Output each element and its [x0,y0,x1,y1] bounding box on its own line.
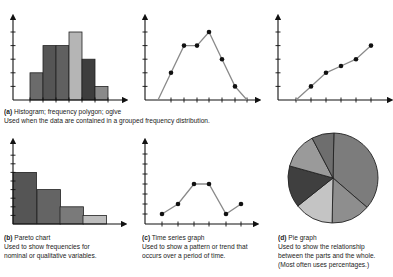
caption-a-description: Used when the data are contained in a gr… [4,116,210,125]
caption-d-line-1: Used to show the relationship [278,242,375,251]
data-point [309,84,314,89]
histogram-bar [56,46,69,100]
ogive-ticks [276,32,372,103]
pareto-bar [60,207,84,224]
data-point [324,71,329,76]
caption-b-label: (b) [4,233,12,242]
caption-d-title: Pie graph [288,233,316,242]
frequency-polygon-chart [143,17,259,103]
caption-b-title: Pareto chart [14,233,50,242]
data-point [239,202,244,207]
histogram-bar [95,86,108,100]
data-point [192,182,197,187]
data-point [160,212,165,217]
histogram-bars [30,32,108,100]
caption-a: (a) Histogram; frequency polygon; ogive … [4,107,210,125]
pie-chart [288,133,378,223]
data-point [176,202,181,207]
caption-d-line-2: between the parts and the whole. [278,251,375,260]
pareto-bar [83,215,107,224]
pareto-bar [13,172,37,224]
caption-b-line-2: nominal or qualitative variables. [4,251,97,260]
caption-d-label: (d) [278,233,286,242]
caption-b-line-1: Used to show frequencies for [4,242,97,251]
ogive-chart [276,17,391,103]
data-point [169,71,174,76]
histogram-bar [43,46,56,100]
histogram-bar [30,73,43,100]
data-line [158,32,247,100]
caption-c-line-1: Used to show a pattern or trend that [142,242,247,251]
caption-c-title: Time series graph [152,233,205,242]
caption-c-line-2: occurs over a period of time. [142,251,247,260]
data-point [233,84,238,89]
caption-a-label: (a) [4,107,12,116]
caption-a-title: Histogram; frequency polygon; ogive [14,107,121,116]
data-point [224,212,229,217]
histogram-bar [82,59,95,100]
data-point [195,43,200,48]
time-series-line [160,182,244,217]
pareto-chart [11,141,125,224]
pareto-bar [37,190,61,224]
histogram-bar [69,32,82,100]
histogram-chart [11,17,126,103]
ogive-line [296,43,373,100]
data-point [220,57,225,62]
data-point [339,64,344,69]
polygon-ticks [143,32,248,103]
data-point [207,182,212,187]
caption-d: (d) Pie graph Used to show the relations… [278,233,375,269]
caption-c-label: (c) [142,233,150,242]
data-point [354,57,359,62]
data-point [207,30,212,35]
data-point [182,43,187,48]
caption-d-line-3: (Most often uses percentages.) [278,260,375,269]
time-series-chart [143,141,257,227]
caption-b: (b) Pareto chart Used to show frequencie… [4,233,97,260]
data-line [296,46,371,100]
polygon-line [158,30,247,100]
data-line [162,184,241,214]
data-point [369,43,374,48]
pareto-bars [13,172,107,224]
caption-c: (c) Time series graph Used to show a pat… [142,233,247,260]
